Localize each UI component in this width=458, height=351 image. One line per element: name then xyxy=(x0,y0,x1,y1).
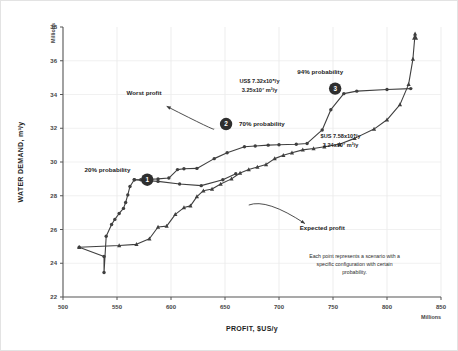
series-marker xyxy=(156,180,159,183)
series-marker xyxy=(178,182,181,185)
series-marker xyxy=(102,271,105,274)
series-marker xyxy=(355,89,358,92)
x-axis-tick-label: 700 xyxy=(274,304,285,310)
series-marker xyxy=(225,151,228,154)
annotation-label-prob-70: 70% probability xyxy=(239,120,285,127)
y-axis-tick-label: 36 xyxy=(50,58,57,64)
x-axis-tick-label: 750 xyxy=(328,304,339,310)
chart-figure: 2224262830323436385005506006507007508008… xyxy=(0,0,458,351)
y-axis-tick-label: 34 xyxy=(50,92,57,98)
series-marker xyxy=(221,178,224,181)
series-marker xyxy=(182,167,185,170)
series-marker xyxy=(243,145,246,148)
x-axis-tick-label: 850 xyxy=(436,304,447,310)
series-marker xyxy=(305,142,308,145)
series-marker xyxy=(126,193,129,196)
series-marker xyxy=(117,212,120,215)
x-axis-tick-label: 550 xyxy=(112,304,123,310)
series-marker xyxy=(385,88,388,91)
series-marker xyxy=(342,92,345,95)
series-marker xyxy=(267,143,270,146)
series-marker xyxy=(110,223,113,226)
chart-caption-line-1: specific configuration with certain xyxy=(317,261,393,267)
chart-plot-area: 2224262830323436385005506006507007508008… xyxy=(1,1,458,351)
series-marker xyxy=(195,167,198,170)
x-axis-tick-label: 600 xyxy=(166,304,177,310)
series-marker xyxy=(133,178,136,181)
probability-badge-number: 3 xyxy=(333,85,337,92)
x-axis-tick-label: 650 xyxy=(220,304,231,310)
series-marker xyxy=(277,143,280,146)
annotation-label-prob-20: 20% probability xyxy=(85,166,131,173)
value-label-upper-line-1: 3.25x10⁷ m³/y xyxy=(242,87,278,93)
y-axis-tick-label: 26 xyxy=(50,227,57,233)
chart-caption-line-2: probability. xyxy=(342,269,367,275)
y-axis-tick-label: 30 xyxy=(50,159,57,165)
annotation-label-worst-profit: Worst profit xyxy=(127,89,162,96)
series-marker xyxy=(124,201,127,204)
probability-badge-number: 2 xyxy=(224,120,228,127)
x-axis-title: PROFIT, $US/y xyxy=(226,325,278,333)
series-marker xyxy=(200,184,203,187)
series-marker xyxy=(122,207,125,210)
chart-caption-line-0: Each point represents a scenario with a xyxy=(309,253,400,259)
y-axis-tick-label: 28 xyxy=(50,193,57,199)
annotation-label-expected-profit: Expected profit xyxy=(300,224,345,231)
y-axis-unit-label: Millions xyxy=(50,23,56,43)
value-label-lower-line-0: $US 7.58x10⁸/y xyxy=(321,133,362,139)
annotation-label-prob-94: 94% probability xyxy=(297,68,343,75)
x-axis-tick-label: 500 xyxy=(58,304,69,310)
y-axis-title: WATER DEMAND, m³/y xyxy=(17,121,25,202)
x-axis-tick-label: 800 xyxy=(382,304,393,310)
series-marker xyxy=(213,157,216,160)
series-marker xyxy=(113,218,116,221)
series-marker xyxy=(329,108,332,111)
series-marker xyxy=(176,168,179,171)
y-axis-tick-label: 22 xyxy=(50,294,57,300)
series-marker xyxy=(321,128,324,131)
series-marker xyxy=(167,176,170,179)
series-marker xyxy=(102,255,105,258)
series-marker xyxy=(105,235,108,238)
probability-badge-number: 1 xyxy=(145,176,149,183)
series-marker xyxy=(234,172,237,175)
x-axis-unit-label: Millions xyxy=(421,314,441,320)
series-marker xyxy=(409,87,412,90)
series-marker xyxy=(254,144,257,147)
y-axis-tick-label: 32 xyxy=(50,125,57,131)
value-label-upper-line-0: US$ 7.32x10⁸/y xyxy=(240,78,281,84)
value-label-lower-line-1: 3.24x10⁷ m³/y xyxy=(323,142,359,148)
series-marker xyxy=(128,185,131,188)
series-marker xyxy=(295,143,298,146)
y-axis-tick-label: 24 xyxy=(50,260,57,266)
chart-svg: 2224262830323436385005506006507007508008… xyxy=(1,1,458,351)
